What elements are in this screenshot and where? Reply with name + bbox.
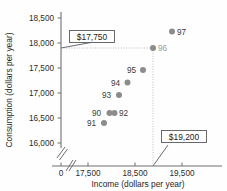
y-tick-label-16000: 16,000 — [29, 139, 54, 148]
callout-label-consumption: $17,750 — [77, 32, 108, 42]
data-point-94[interactable] — [125, 80, 131, 86]
y-tick-label-18500: 18,500 — [29, 14, 54, 23]
y-tick-label-17500: 17,500 — [29, 64, 54, 73]
chart-canvas: 18,500 18,000 17,500 17,000 16,500 16,00… — [0, 0, 227, 191]
data-point-95[interactable] — [140, 67, 146, 73]
x-tick-label-18500: 18,500 — [122, 169, 147, 178]
x-tick-label-19500: 19,500 — [169, 169, 194, 178]
x-tick-label-0: 0 — [59, 169, 64, 178]
data-point-92[interactable] — [112, 110, 118, 116]
data-point-label-96: 96 — [158, 44, 168, 53]
callout-income-19200[interactable]: $19,200 — [153, 131, 207, 167]
y-axis-title: Consumption (dollars per year) — [4, 32, 14, 147]
data-point-91[interactable] — [101, 120, 107, 126]
data-point-label-92: 92 — [119, 109, 129, 118]
data-point-97[interactable] — [169, 29, 175, 35]
callout-leader-line-income — [153, 145, 168, 166]
data-point-label-91: 91 — [87, 119, 97, 128]
y-axis-break-mark — [57, 147, 68, 160]
data-point-label-90: 90 — [92, 109, 102, 118]
data-point-96[interactable] — [150, 45, 156, 51]
y-tick-label-17000: 17,000 — [29, 89, 54, 98]
data-point-label-93: 93 — [102, 91, 112, 100]
data-point-93[interactable] — [116, 92, 122, 98]
y-tick-label-16500: 16,500 — [29, 114, 54, 123]
data-point-label-95: 95 — [127, 66, 137, 75]
y-tick-label-18000: 18,000 — [29, 39, 54, 48]
x-tick-label-17500: 17,500 — [75, 169, 100, 178]
callout-consumption-17750[interactable]: $17,750 — [61, 31, 115, 49]
data-point-label-97: 97 — [177, 28, 187, 37]
x-axis-title: Income (dollars per year) — [91, 179, 184, 189]
callout-label-income: $19,200 — [169, 132, 200, 142]
consumption-vs-income-scatter-chart: 18,500 18,000 17,500 17,000 16,500 16,00… — [0, 0, 227, 191]
data-point-label-94: 94 — [111, 79, 121, 88]
